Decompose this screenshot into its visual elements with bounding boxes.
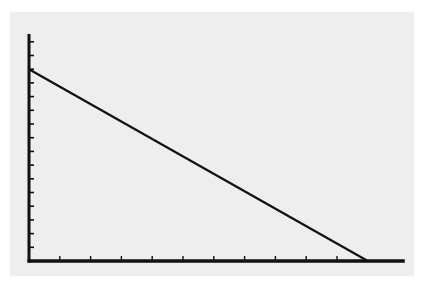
line-chart xyxy=(0,0,429,288)
data-line xyxy=(29,69,368,261)
